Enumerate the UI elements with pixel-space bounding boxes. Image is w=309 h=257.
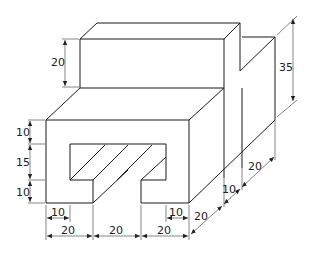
dim-label: 10 bbox=[169, 206, 183, 219]
dim-label: 20 bbox=[61, 224, 75, 237]
dim-label: 10 bbox=[222, 183, 236, 196]
dim-label: 20 bbox=[157, 224, 171, 237]
dim-label: 20 bbox=[194, 210, 208, 223]
dim-depth: 20 10 20 bbox=[191, 120, 275, 234]
isometric-drawing: 20 35 10 15 10 10 10 20 20 20 bbox=[0, 0, 309, 257]
lower-block bbox=[46, 88, 275, 203]
dim-label: 10 bbox=[16, 126, 30, 139]
upper-block bbox=[80, 23, 240, 89]
dim-label: 15 bbox=[16, 156, 30, 169]
dim-label: 20 bbox=[248, 160, 262, 173]
dim-label: 20 bbox=[109, 224, 123, 237]
dim-bottom: 10 10 20 20 20 bbox=[46, 205, 189, 240]
dim-label: 35 bbox=[279, 61, 293, 74]
dim-upper-height: 20 bbox=[51, 39, 79, 87]
rear-right-block bbox=[224, 37, 275, 178]
dim-overall-height: 35 bbox=[277, 16, 297, 117]
dim-label: 10 bbox=[51, 206, 65, 219]
dim-label: 20 bbox=[51, 56, 65, 69]
dim-label: 10 bbox=[16, 186, 30, 199]
dim-left-stack: 10 15 10 bbox=[16, 120, 45, 203]
